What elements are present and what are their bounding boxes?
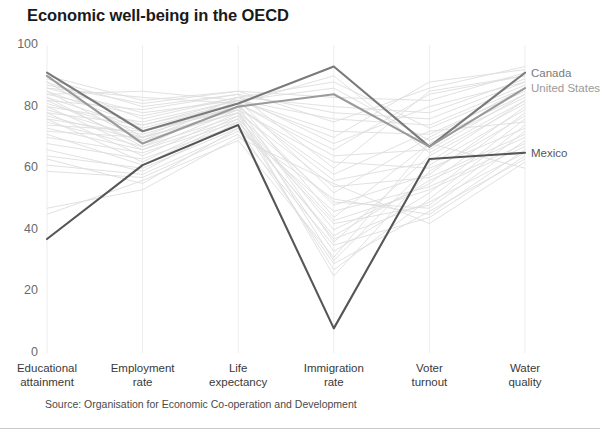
x-axis-tick-label: Educationalattainment bbox=[17, 362, 77, 389]
x-axis-tick-label-line: quality bbox=[508, 376, 541, 390]
x-axis-tick-label: Immigrationrate bbox=[304, 362, 364, 389]
highlighted-series-line bbox=[47, 125, 525, 328]
x-axis-tick-label-line: Voter bbox=[411, 362, 447, 376]
bottom-divider bbox=[0, 428, 600, 429]
chart-container: Economic well-being in the OECD 10080604… bbox=[0, 0, 600, 447]
x-axis-tick-label-line: expectancy bbox=[209, 376, 267, 390]
x-axis-tick-label-line: attainment bbox=[17, 376, 77, 390]
x-axis-tick-label-line: Educational bbox=[17, 362, 77, 376]
x-axis-tick-label: Voterturnout bbox=[411, 362, 447, 389]
background-series-line bbox=[47, 100, 525, 174]
y-axis-tick-label: 60 bbox=[8, 160, 38, 174]
x-axis-tick-label: Waterquality bbox=[508, 362, 541, 389]
series-label-united-states: United States bbox=[531, 82, 600, 94]
y-axis-tick-label: 100 bbox=[8, 37, 38, 51]
x-axis-tick-label-line: Employment bbox=[111, 362, 175, 376]
y-axis-tick-label: 40 bbox=[8, 222, 38, 236]
background-series-line bbox=[47, 128, 525, 264]
x-axis-tick-label-line: rate bbox=[304, 376, 364, 390]
x-axis-tick-label-line: rate bbox=[111, 376, 175, 390]
y-axis-tick-label: 0 bbox=[8, 345, 38, 359]
y-axis-tick-label: 20 bbox=[8, 283, 38, 297]
source-note: Source: Organisation for Economic Co-ope… bbox=[45, 398, 357, 410]
background-series-lines bbox=[47, 67, 525, 276]
y-axis-tick-label: 80 bbox=[8, 99, 38, 113]
background-series-line bbox=[47, 73, 525, 104]
series-label-mexico: Mexico bbox=[531, 147, 567, 159]
x-axis-tick-label-line: Water bbox=[508, 362, 541, 376]
x-axis-tick-label-line: Life bbox=[209, 362, 267, 376]
highlighted-series-lines bbox=[47, 67, 525, 329]
x-axis-tick-label-line: Immigration bbox=[304, 362, 364, 376]
series-label-canada: Canada bbox=[531, 67, 571, 79]
x-axis-tick-label: Employmentrate bbox=[111, 362, 175, 389]
x-axis-tick-label-line: turnout bbox=[411, 376, 447, 390]
x-axis-tick-label: Lifeexpectancy bbox=[209, 362, 267, 389]
